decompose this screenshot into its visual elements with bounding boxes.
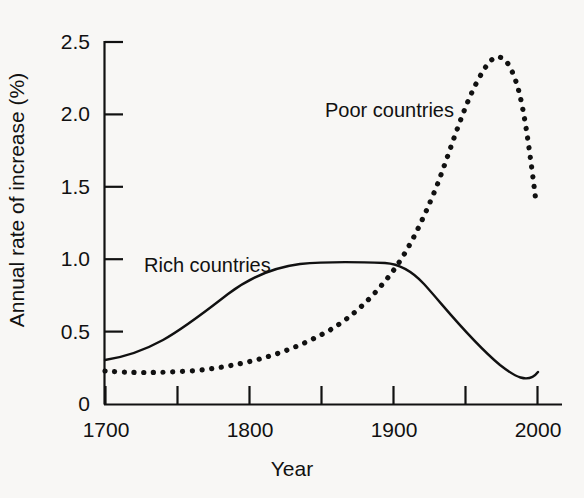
y-tick-label-2.0: 2.0 — [34, 103, 90, 124]
axis-lines — [104, 41, 562, 405]
y-tick-label-1.5: 1.5 — [34, 176, 90, 197]
series-annotation-poor-countries: Poor countries — [325, 100, 454, 120]
x-axis-title: Year — [0, 458, 584, 479]
x-tick-label-1900: 1900 — [350, 419, 438, 440]
x-tick-label-2000: 2000 — [494, 419, 582, 440]
y-tick-label-2.5: 2.5 — [34, 31, 90, 52]
y-tick-label-0: 0 — [34, 393, 90, 414]
series-annotation-rich-countries: Rich countries — [144, 255, 271, 275]
x-tick-label-1700: 1700 — [62, 419, 150, 440]
series-line-rich-countries — [105, 262, 538, 378]
x-tick-label-1800: 1800 — [206, 419, 294, 440]
x-axis-ticks — [106, 386, 538, 404]
y-axis-title: Annual rate of increase (%) — [5, 73, 29, 327]
y-tick-label-1.0: 1.0 — [34, 248, 90, 269]
y-axis-title-wrapper: Annual rate of increase (%) — [0, 0, 34, 400]
chart-figure: 2.5 2.0 1.5 1.0 0.5 0 1700 1800 1900 200… — [0, 0, 584, 498]
series-line-poor-countries — [105, 57, 536, 373]
y-axis-ticks — [105, 42, 123, 332]
y-tick-label-0.5: 0.5 — [34, 321, 90, 342]
